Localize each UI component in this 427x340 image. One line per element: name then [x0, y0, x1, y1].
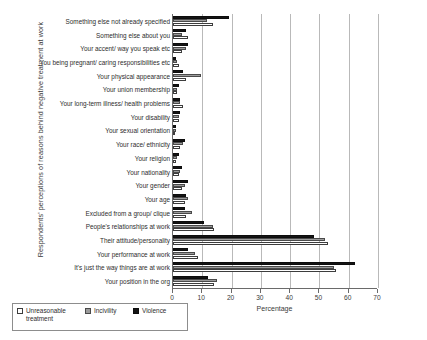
x-axis-title: Percentage: [172, 305, 377, 312]
bar-unreasonable: [173, 228, 214, 231]
legend-label: Violence: [142, 307, 166, 315]
bars: [173, 137, 377, 151]
bar-group: Your race/ ethnicity: [173, 137, 377, 151]
category-label: Something else not already specified: [66, 17, 170, 24]
bar-group: Your union membership: [173, 83, 377, 97]
bar-violence: [173, 43, 188, 46]
bar-incivility: [173, 142, 183, 145]
bars: [173, 261, 377, 275]
bar-group: Your position in the org: [173, 274, 377, 288]
bar-group: Something else not already specified: [173, 14, 377, 28]
category-label: Your sexual orientation: [105, 127, 170, 134]
category-label: Your union membership: [103, 86, 170, 93]
bar-violence: [173, 166, 182, 169]
x-tick: [348, 289, 349, 293]
x-tick: [172, 289, 173, 293]
bar-violence: [173, 98, 180, 101]
bar-unreasonable: [173, 283, 214, 286]
legend-label: Unreasonable treatment: [26, 307, 84, 322]
x-tick: [318, 289, 319, 293]
x-axis: [172, 288, 377, 289]
bar-incivility: [173, 33, 182, 36]
bar-violence: [173, 111, 180, 114]
bar-group: Your sexual orientation: [173, 124, 377, 138]
x-tick: [231, 289, 232, 293]
x-tick: [260, 289, 261, 293]
bars: [173, 220, 377, 234]
category-label: Your long-term illness/ health problems: [60, 100, 170, 107]
bar-violence: [173, 16, 229, 19]
bar-incivility: [173, 238, 325, 241]
category-label: Your position in the org: [105, 278, 170, 285]
bar-unreasonable: [173, 64, 179, 67]
bar-unreasonable: [173, 187, 182, 190]
legend-swatch-incivility: [85, 308, 91, 314]
category-label: Your physical appearance: [97, 72, 170, 79]
bars: [173, 110, 377, 124]
bar-group: Your disability: [173, 110, 377, 124]
bar-group: People's relationships at work: [173, 220, 377, 234]
bar-incivility: [173, 19, 207, 22]
bar-violence: [173, 139, 185, 142]
bar-violence: [173, 262, 355, 265]
x-tick: [201, 289, 202, 293]
bar-group: You being pregnant/ caring responsibilit…: [173, 55, 377, 69]
x-tick-label: 0: [170, 294, 174, 301]
bars: [173, 274, 377, 288]
bar-group: Their attitude/personality: [173, 233, 377, 247]
category-label: Your gender: [135, 182, 170, 189]
bar-violence: [173, 84, 179, 87]
chart-figure: Respondents' perceptions of reasons behi…: [0, 0, 427, 340]
category-label: Something else about you: [96, 31, 170, 38]
bar-violence: [173, 180, 188, 183]
x-tick-label: 10: [198, 294, 205, 301]
legend-swatch-violence: [133, 308, 139, 314]
bar-incivility: [173, 47, 186, 50]
bar-unreasonable: [173, 146, 180, 149]
bars: [173, 41, 377, 55]
legend-item-incivility: Incivility: [85, 307, 116, 315]
bar-incivility: [173, 184, 185, 187]
plot-area: Something else not already specifiedSome…: [172, 14, 377, 288]
legend-swatch-unreasonable: [17, 308, 23, 314]
bars: [173, 55, 377, 69]
bar-unreasonable: [173, 36, 188, 39]
bar-violence: [173, 153, 179, 156]
bar-unreasonable: [173, 23, 213, 26]
category-label: Your performance at work: [97, 250, 170, 257]
category-label: Your religion: [135, 154, 170, 161]
bar-incivility: [173, 129, 176, 132]
bar-unreasonable: [173, 256, 198, 259]
bars: [173, 165, 377, 179]
bar-violence: [173, 125, 176, 128]
bar-group: Your physical appearance: [173, 69, 377, 83]
bar-incivility: [173, 225, 213, 228]
x-tick-label: 70: [373, 294, 380, 301]
x-tick-label: 40: [285, 294, 292, 301]
bar-group: Your religion: [173, 151, 377, 165]
bar-unreasonable: [173, 160, 176, 163]
bar-unreasonable: [173, 78, 186, 81]
bars: [173, 206, 377, 220]
bar-group: Your long-term illness/ health problems: [173, 96, 377, 110]
bar-group: Your age: [173, 192, 377, 206]
bar-violence: [173, 207, 185, 210]
bar-incivility: [173, 88, 177, 91]
y-axis-title: Respondents' perceptions of reasons behi…: [36, 5, 45, 275]
bar-incivility: [173, 252, 195, 255]
bar-violence: [173, 276, 208, 279]
chart-legend: Unreasonable treatmentIncivilityViolence: [12, 303, 188, 331]
bar-violence: [173, 29, 186, 32]
category-label: Your nationality: [127, 168, 170, 175]
x-tick-label: 60: [344, 294, 351, 301]
bars: [173, 83, 377, 97]
bar-unreasonable: [173, 173, 179, 176]
bar-unreasonable: [173, 215, 186, 218]
category-label: It's just the way things are at work: [74, 264, 170, 271]
x-tick-label: 50: [315, 294, 322, 301]
bar-incivility: [173, 279, 217, 282]
bar-incivility: [173, 101, 180, 104]
category-label: You being pregnant/ caring responsibilit…: [40, 58, 170, 65]
category-label: Your disability: [131, 113, 170, 120]
legend-label: Incivility: [94, 307, 116, 315]
